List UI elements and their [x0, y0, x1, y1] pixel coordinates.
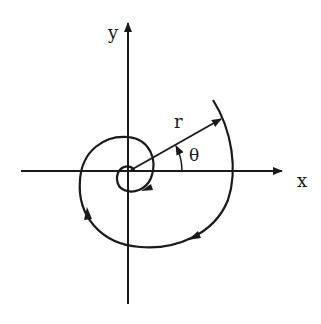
spiral-curve [80, 100, 233, 247]
y-axis-label: y [108, 24, 118, 42]
diagram-canvas [0, 0, 321, 324]
spiral-direction-arrow-icon [188, 231, 201, 240]
radius-label: r [174, 113, 183, 131]
angle-label: θ [189, 147, 199, 164]
theta-arc [176, 146, 182, 171]
x-axis-label: x [297, 172, 307, 190]
polar-spiral-diagram: y x r θ [0, 0, 321, 324]
